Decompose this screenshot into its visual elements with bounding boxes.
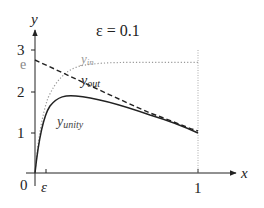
y-unity-curve (35, 96, 198, 173)
chart-svg: 3 2 1 e 0 ε 1 y x ε = 0.1 yin yout yunit… (0, 0, 264, 208)
y-unity-label: yunity (55, 114, 84, 130)
x-tick-label-1: 1 (194, 180, 202, 196)
y-tick-label-1: 1 (17, 125, 25, 141)
y-axis-label: y (29, 11, 38, 27)
x-tick-label-eps: ε (41, 179, 47, 195)
y-tick-label-2: 2 (17, 84, 25, 100)
y-tick-label-3: 3 (17, 42, 25, 58)
chart-title: ε = 0.1 (96, 22, 140, 39)
y-out-label: yout (79, 73, 100, 89)
y-tick-label-e: e (20, 57, 26, 72)
x-axis-label: x (240, 165, 248, 181)
y-in-label: yin (79, 51, 94, 67)
x-tick-label-0: 0 (20, 177, 28, 193)
